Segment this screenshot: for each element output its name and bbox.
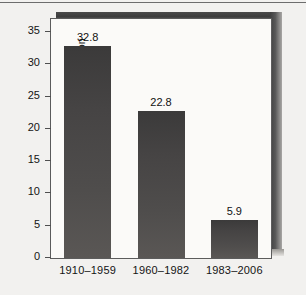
- y-axis-tick-mark: [45, 96, 51, 97]
- y-axis-tick-mark: [45, 31, 51, 32]
- y-axis-tick-label: 15: [28, 153, 40, 165]
- y-axis-tick-label: 30: [28, 56, 40, 68]
- y-axis-tick-mark: [45, 192, 51, 193]
- bar: [138, 111, 185, 258]
- y-axis-tick-mark: [45, 160, 51, 161]
- y-axis-tick-mark: [45, 63, 51, 64]
- y-axis-tick-label: 25: [28, 89, 40, 101]
- plot-area: Percent of Time in Recession 05101520253…: [50, 18, 272, 259]
- y-axis-tick-mark: [45, 225, 51, 226]
- y-axis-tick-label: 10: [28, 185, 40, 197]
- bar: [211, 220, 258, 258]
- x-axis-label: 1983–2006: [194, 264, 274, 276]
- bar-chart-figure: Percent of Time in Recession 05101520253…: [0, 0, 306, 295]
- y-axis-tick-label: 5: [34, 218, 40, 230]
- bar: [64, 46, 111, 258]
- y-axis-tick-label: 0: [34, 250, 40, 262]
- y-axis-tick-mark: [45, 128, 51, 129]
- y-axis-tick-mark: [45, 257, 51, 258]
- y-axis-tick-label: 20: [28, 121, 40, 133]
- x-axis-label: 1960–1982: [121, 264, 201, 276]
- bar-value-label: 32.8: [58, 31, 118, 43]
- bar-value-label: 22.8: [131, 96, 191, 108]
- y-axis-tick-label: 35: [28, 24, 40, 36]
- x-axis-label: 1910–1959: [48, 264, 128, 276]
- bar-value-label: 5.9: [204, 205, 264, 217]
- figure-shadow-bottom: [270, 249, 284, 256]
